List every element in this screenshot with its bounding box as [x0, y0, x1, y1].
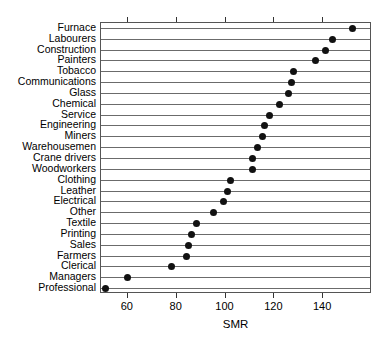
category-label: Communications — [0, 76, 96, 86]
data-point[interactable] — [285, 90, 292, 97]
grid-line — [101, 245, 370, 246]
grid-line — [101, 169, 370, 170]
data-point[interactable] — [261, 122, 268, 129]
data-point[interactable] — [259, 133, 266, 140]
data-point[interactable] — [124, 274, 131, 281]
grid-line — [101, 125, 370, 126]
grid-line — [101, 115, 370, 116]
category-label: Service — [0, 109, 96, 119]
x-tick-label: 80 — [156, 300, 196, 312]
data-point[interactable] — [290, 68, 297, 75]
category-label: Managers — [0, 271, 96, 281]
grid-line — [101, 147, 370, 148]
data-point[interactable] — [249, 155, 256, 162]
x-tick-label: 120 — [253, 300, 293, 312]
data-point[interactable] — [266, 112, 273, 119]
grid-line — [101, 180, 370, 181]
data-point[interactable] — [349, 25, 356, 32]
x-tick — [225, 293, 226, 298]
smr-dot-chart: FurnaceLabourersConstructionPaintersToba… — [0, 0, 382, 346]
category-label: Farmers — [0, 250, 96, 260]
x-tick — [322, 293, 323, 298]
data-point[interactable] — [227, 177, 234, 184]
grid-line — [101, 136, 370, 137]
category-label: Leather — [0, 185, 96, 195]
grid-line — [101, 71, 370, 72]
category-label: Sales — [0, 239, 96, 249]
data-point[interactable] — [193, 220, 200, 227]
grid-line — [101, 82, 370, 83]
plot-area — [100, 22, 371, 293]
grid-line — [101, 28, 370, 29]
data-point[interactable] — [288, 79, 295, 86]
category-label: Painters — [0, 54, 96, 64]
grid-line — [101, 158, 370, 159]
category-label: Chemical — [0, 98, 96, 108]
grid-line — [101, 288, 370, 289]
grid-line — [101, 60, 370, 61]
category-label: Woodworkers — [0, 163, 96, 173]
grid-line — [101, 223, 370, 224]
x-tick — [127, 293, 128, 298]
category-label: Printing — [0, 228, 96, 238]
x-axis-title: SMR — [100, 318, 371, 330]
grid-line — [101, 93, 370, 94]
category-label: Electrical — [0, 195, 96, 205]
x-tick-label: 60 — [107, 300, 147, 312]
category-label: Textile — [0, 217, 96, 227]
data-point[interactable] — [254, 144, 261, 151]
data-point[interactable] — [329, 36, 336, 43]
data-point[interactable] — [102, 285, 109, 292]
category-label: Clerical — [0, 260, 96, 270]
category-label: Crane drivers — [0, 152, 96, 162]
category-label: Labourers — [0, 33, 96, 43]
grid-line — [101, 104, 370, 105]
x-tick-label: 140 — [302, 300, 342, 312]
x-tick — [273, 293, 274, 298]
grid-line — [101, 201, 370, 202]
data-point[interactable] — [322, 47, 329, 54]
category-label: Tobacco — [0, 65, 96, 75]
category-axis-labels: FurnaceLabourersConstructionPaintersToba… — [0, 22, 96, 293]
category-label: Construction — [0, 44, 96, 54]
data-point[interactable] — [210, 209, 217, 216]
category-label: Clothing — [0, 174, 96, 184]
x-tick-label: 100 — [205, 300, 245, 312]
data-point[interactable] — [185, 242, 192, 249]
grid-line — [101, 256, 370, 257]
category-label: Miners — [0, 130, 96, 140]
category-label: Engineering — [0, 119, 96, 129]
category-label: Other — [0, 206, 96, 216]
data-point[interactable] — [183, 253, 190, 260]
grid-line — [101, 234, 370, 235]
data-point[interactable] — [224, 188, 231, 195]
grid-line — [101, 277, 370, 278]
x-axis: 6080100120140 — [100, 293, 371, 317]
data-point[interactable] — [312, 57, 319, 64]
category-label: Warehousemen — [0, 141, 96, 151]
data-point[interactable] — [220, 198, 227, 205]
x-tick — [176, 293, 177, 298]
grid-line — [101, 50, 370, 51]
data-point[interactable] — [249, 166, 256, 173]
grid-line — [101, 266, 370, 267]
category-label: Glass — [0, 87, 96, 97]
data-point[interactable] — [168, 263, 175, 270]
grid-line — [101, 212, 370, 213]
data-point[interactable] — [276, 101, 283, 108]
category-label: Furnace — [0, 22, 96, 32]
cut-off-caption — [8, 336, 374, 344]
category-label: Professional — [0, 282, 96, 292]
grid-line — [101, 191, 370, 192]
data-point[interactable] — [188, 231, 195, 238]
